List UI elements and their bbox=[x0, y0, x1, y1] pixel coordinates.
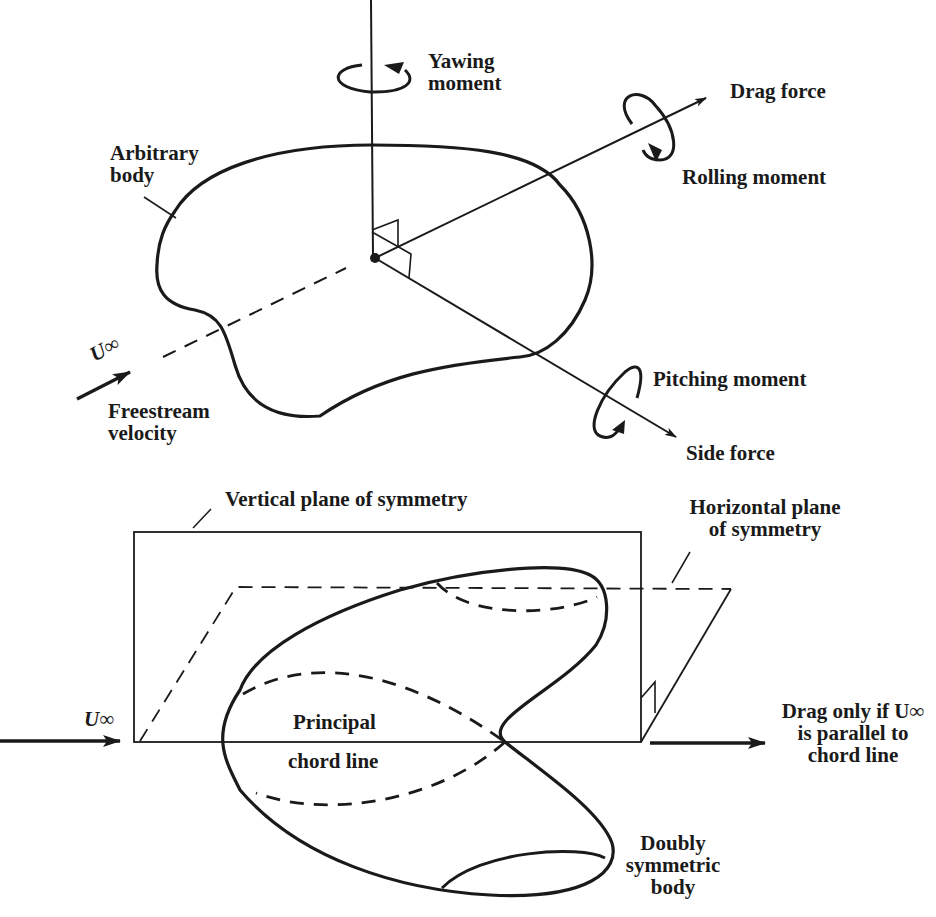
horizontal-plane-label: Horizontal plane of symmetry bbox=[660, 496, 870, 540]
pitching-moment-label: Pitching moment bbox=[653, 368, 806, 390]
horizontal-plane-dashed bbox=[140, 587, 731, 741]
body-upper-dashed-curve bbox=[437, 583, 597, 611]
doubly-symmetric-label-line1: Doubly bbox=[618, 832, 728, 854]
body-lower-edge bbox=[442, 852, 605, 888]
doubly-symmetric-body-label: Doubly symmetric body bbox=[618, 832, 728, 898]
drag-note-line3: chord line bbox=[770, 744, 936, 766]
freestream-velocity-label-line1: Freestream bbox=[108, 400, 210, 422]
yawing-moment-label-line2: moment bbox=[428, 72, 501, 94]
freestream-dashed-line bbox=[163, 268, 346, 357]
horizontal-plane-label-line2: of symmetry bbox=[660, 518, 870, 540]
yaw-axis bbox=[371, 0, 373, 258]
arbitrary-body-label-line2: body bbox=[110, 164, 199, 186]
vertical-plane-of-symmetry bbox=[134, 532, 641, 742]
horizontal-plane-right-edge bbox=[641, 589, 731, 742]
right-angle-marker-plane bbox=[641, 682, 655, 713]
drag-force-arrow bbox=[375, 98, 706, 258]
yaw-moment-icon bbox=[338, 62, 410, 92]
arbitrary-body-label: Arbitrary body bbox=[110, 142, 199, 186]
drag-note-line1: Drag only if U∞ bbox=[770, 700, 936, 722]
horizontal-plane-label-line1: Horizontal plane bbox=[660, 496, 870, 518]
drag-note-label: Drag only if U∞ is parallel to chord lin… bbox=[770, 700, 936, 766]
vertical-plane-label: Vertical plane of symmetry bbox=[225, 488, 467, 510]
arbitrary-body-label-line1: Arbitrary bbox=[110, 142, 199, 164]
doubly-symmetric-body-outline bbox=[223, 568, 614, 896]
doubly-symmetric-label-line2: symmetric bbox=[618, 854, 728, 876]
freestream-symbol-bottom: U∞ bbox=[84, 708, 114, 730]
yawing-moment-label: Yawing moment bbox=[428, 50, 501, 94]
arbitrary-body-leader bbox=[144, 197, 176, 218]
aerodynamic-diagram bbox=[0, 0, 936, 917]
freestream-velocity-label-line2: velocity bbox=[108, 422, 210, 444]
rolling-moment-icon bbox=[624, 95, 674, 162]
principal-label: Principal bbox=[293, 711, 376, 733]
drag-note-line2: is parallel to bbox=[770, 722, 936, 744]
arbitrary-body-group bbox=[77, 0, 706, 437]
yawing-moment-label-line1: Yawing bbox=[428, 50, 501, 72]
freestream-velocity-label: Freestream velocity bbox=[108, 400, 210, 444]
side-force-arrow bbox=[375, 258, 676, 437]
rolling-moment-label: Rolling moment bbox=[682, 166, 826, 188]
horizontal-plane-leader bbox=[672, 552, 690, 583]
doubly-symmetric-label-line3: body bbox=[618, 876, 728, 898]
chord-line-label: chord line bbox=[288, 750, 378, 772]
vertical-plane-leader bbox=[193, 509, 211, 528]
drag-force-label: Drag force bbox=[730, 80, 826, 102]
side-force-label: Side force bbox=[686, 442, 775, 464]
freestream-velocity-arrow bbox=[77, 372, 130, 399]
